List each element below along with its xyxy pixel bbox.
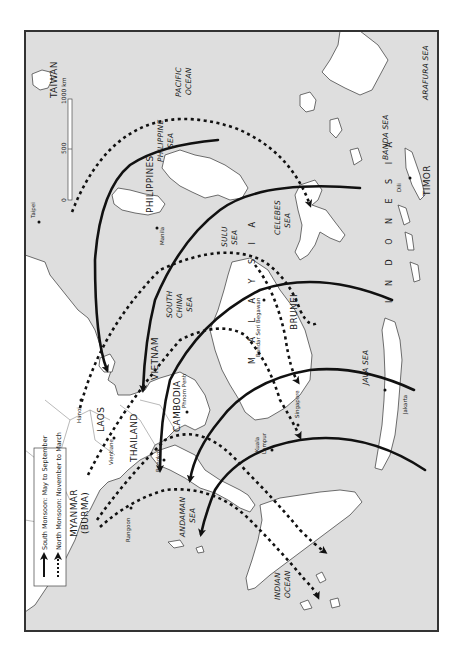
scale-tick-1000: 1000 km (60, 77, 67, 104)
label-south-china-2: CHINA (175, 293, 184, 318)
label-philippine-2: SEA (166, 133, 175, 148)
label-vientiane: Vientiane (108, 438, 114, 465)
label-south-china-3: SEA (185, 297, 194, 312)
scale-tick-0: 0 (60, 198, 67, 202)
legend: South Monsoon: May to September North Mo… (34, 432, 66, 586)
city-dot-dili (409, 177, 412, 180)
label-taiwan: TAIWAN (49, 61, 59, 99)
label-philippine-1: PHILIPPINE (156, 120, 165, 162)
label-indian-2: OCEAN (283, 570, 292, 598)
label-thailand: THAILAND (129, 413, 139, 463)
city-dot-bangkok (163, 459, 166, 462)
label-hanoi: Hanoi (76, 407, 82, 423)
label-philippines: PHILIPPINES (145, 156, 155, 213)
city-dot-bandar (263, 299, 266, 302)
label-rangoon: Rangoon (125, 517, 132, 542)
label-myanmar-burma: (BURMA) (80, 492, 90, 534)
legend-label-north: North Monsoon: November to March (55, 432, 63, 550)
city-dot-kuala-lumpur (271, 449, 274, 452)
label-vietnam: VIETNAM (150, 337, 160, 380)
label-brunei: BRUNEI (289, 294, 299, 330)
city-dot-taipei (38, 221, 41, 224)
city-dot-hanoi (80, 399, 83, 402)
label-pacific-2: OCEAN (184, 67, 193, 95)
label-sulu-2: SEA (230, 230, 239, 245)
label-jakarta: Jakarta (402, 395, 409, 415)
label-celebes-1: CELEBES (273, 200, 282, 235)
monsoon-map: South Monsoon: May to September North Mo… (0, 0, 462, 656)
city-dot-jakarta (384, 389, 387, 392)
legend-label-south: South Monsoon: May to September (41, 435, 49, 550)
label-manila: Manila (159, 227, 165, 245)
label-laos: LAOS (96, 407, 106, 432)
label-singapore: Singapore (294, 390, 301, 418)
label-andaman-2: SEA (188, 508, 197, 523)
label-java-sea: JAVA SEA (361, 350, 370, 387)
label-taipei: Taipei (30, 202, 37, 219)
label-celebes-2: SEA (283, 213, 292, 228)
label-dili: Dili (396, 183, 402, 192)
city-dot-singapore (297, 424, 300, 427)
label-sulu-1: SULU (220, 226, 229, 247)
label-arafura-sea: ARAFURA SEA (421, 45, 430, 101)
label-bangkok: Bangkok (155, 448, 162, 472)
label-andaman-1: ANDAMAN (178, 497, 187, 538)
label-banda-sea: BANDA SEA (381, 114, 390, 160)
label-myanmar: MYANMAR (69, 489, 79, 537)
scale-tick-500: 500 (60, 142, 67, 154)
label-bandar: Bandar Seri Begawan (255, 297, 262, 357)
label-indian-1: INDIAN (273, 572, 282, 600)
label-kuala: Kuala (254, 437, 260, 452)
label-phnom-penh: Phnom Penh (181, 373, 187, 408)
label-pacific-1: PACIFIC (174, 67, 183, 97)
city-dot-rangoon (130, 507, 133, 510)
city-dot-phnom-penh (186, 411, 189, 414)
label-lumpur: Lumpur (261, 432, 268, 454)
label-timor: TIMOR (422, 165, 432, 197)
label-south-china-1: SOUTH (165, 290, 174, 318)
